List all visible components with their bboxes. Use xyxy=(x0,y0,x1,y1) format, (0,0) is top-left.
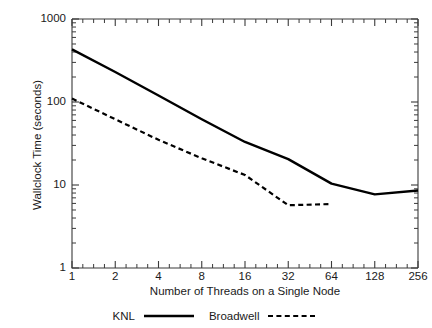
x-tick-label: 128 xyxy=(355,270,395,282)
x-tick-label: 2 xyxy=(95,270,135,282)
x-tick-label: 16 xyxy=(225,270,265,282)
chart-figure: 1101001000 1248163264128256 Wallclock Ti… xyxy=(0,0,432,328)
x-tick-label: 4 xyxy=(139,270,179,282)
x-tick-label: 64 xyxy=(312,270,352,282)
chart-legend: KNLBroadwell xyxy=(0,306,432,326)
x-tick-label: 1 xyxy=(52,270,92,282)
legend-label: Broadwell xyxy=(209,310,260,322)
legend-label: KNL xyxy=(113,310,135,322)
legend-item-broadwell: Broadwell xyxy=(209,310,320,322)
x-tick-label: 8 xyxy=(182,270,222,282)
legend-item-knl: KNL xyxy=(113,310,195,322)
x-tick-label: 32 xyxy=(268,270,308,282)
x-axis-title: Number of Threads on a Single Node xyxy=(72,285,418,297)
legend-line-swatch-solid xyxy=(143,311,195,321)
y-axis-title: Wallclock Time (seconds) xyxy=(31,20,43,270)
x-tick-label: 256 xyxy=(398,270,432,282)
legend-line-swatch-dashed xyxy=(267,311,319,321)
x-tick-label-group: 1248163264128256 xyxy=(0,0,432,328)
